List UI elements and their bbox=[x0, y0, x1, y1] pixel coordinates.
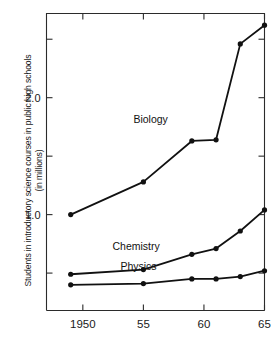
data-series-lines bbox=[71, 25, 265, 285]
data-point bbox=[141, 281, 146, 286]
data-point bbox=[189, 138, 194, 143]
plot-area: 1.02.0 1950556065 BiologyChemistryPhysic… bbox=[0, 0, 278, 344]
data-point bbox=[68, 282, 73, 287]
data-point-markers bbox=[68, 23, 267, 288]
series-label-biology: Biology bbox=[133, 113, 168, 125]
data-point bbox=[213, 137, 218, 142]
data-point bbox=[141, 179, 146, 184]
x-tick-label: 1950 bbox=[70, 318, 96, 330]
series-label-physics: Physics bbox=[120, 260, 156, 272]
data-point bbox=[189, 276, 194, 281]
data-point bbox=[68, 212, 73, 217]
data-point bbox=[262, 207, 267, 212]
x-tick-labels: 1950556065 bbox=[70, 318, 271, 330]
data-point bbox=[68, 272, 73, 277]
data-point bbox=[238, 274, 243, 279]
x-tick-label: 55 bbox=[137, 318, 150, 330]
data-point bbox=[262, 23, 267, 28]
x-tick-label: 65 bbox=[258, 318, 271, 330]
y-tick-label: 1.0 bbox=[25, 209, 40, 221]
x-tick-label: 60 bbox=[198, 318, 211, 330]
data-point bbox=[213, 276, 218, 281]
line-chart-svg: 1.02.0 1950556065 BiologyChemistryPhysic… bbox=[0, 0, 278, 344]
y-tick-label: 2.0 bbox=[25, 92, 40, 104]
data-point bbox=[213, 246, 218, 251]
series-line-chemistry bbox=[71, 210, 265, 274]
data-point bbox=[189, 252, 194, 257]
data-point bbox=[262, 268, 267, 273]
data-point bbox=[238, 228, 243, 233]
data-point bbox=[238, 41, 243, 46]
y-tick-labels: 1.02.0 bbox=[25, 92, 40, 221]
series-label-chemistry: Chemistry bbox=[112, 240, 160, 252]
chart-figure: Students in introductory science courses… bbox=[0, 0, 278, 344]
